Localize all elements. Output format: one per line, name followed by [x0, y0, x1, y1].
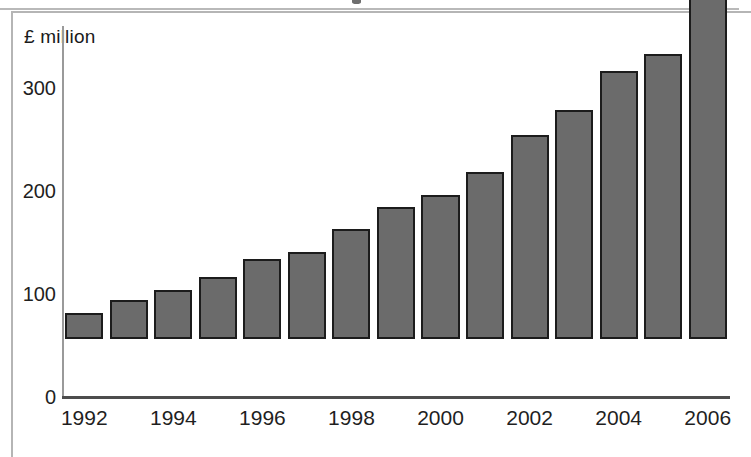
x-tick-label: 2002 [506, 406, 553, 430]
bar [466, 172, 504, 339]
bar [511, 135, 549, 339]
x-tick-label: 1996 [239, 406, 286, 430]
bar [65, 313, 103, 339]
bar [110, 300, 148, 339]
y-axis-tick-labels: 0100200300 [0, 0, 56, 457]
x-tick-label: 1994 [150, 406, 197, 430]
y-tick-label: 100 [4, 283, 56, 306]
x-axis-tick-labels: 19921994199619982000200220042006 [62, 406, 730, 446]
bar [332, 229, 370, 339]
bar [555, 110, 593, 339]
bar [644, 54, 682, 339]
bar [689, 0, 727, 339]
y-tick-label: 200 [4, 180, 56, 203]
x-tick-label: 1998 [328, 406, 375, 430]
bar [600, 71, 638, 339]
x-tick-label: 2006 [684, 406, 731, 430]
y-tick-label: 300 [4, 77, 56, 100]
x-tick-label: 2000 [417, 406, 464, 430]
bar [154, 290, 192, 339]
bar [377, 207, 415, 339]
bars-layer [62, 0, 730, 399]
bar [243, 259, 281, 339]
bar [288, 252, 326, 339]
bar [421, 195, 459, 339]
y-tick-label: 0 [4, 386, 56, 409]
bar [199, 277, 237, 339]
x-tick-label: 1992 [61, 406, 108, 430]
x-tick-label: 2004 [595, 406, 642, 430]
